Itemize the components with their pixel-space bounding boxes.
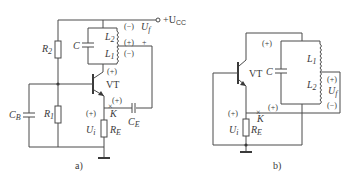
polarity-collector: (+) xyxy=(107,67,117,76)
polarity-bottom-b: (−) xyxy=(327,101,337,110)
diagram-a: +UCC R2 C L2 L1 (−) (+) (−) Uf + CE xyxy=(9,14,186,172)
polarity-tap-b: (+) xyxy=(327,75,337,84)
caption-b: b) xyxy=(273,160,281,172)
k-label-b: K xyxy=(256,113,265,124)
inductor-l2-l1 xyxy=(117,31,119,63)
resistor-r2 xyxy=(55,41,61,58)
polarity-emitter-b: (+) xyxy=(268,103,278,112)
l1-label-b: L1 xyxy=(306,53,317,66)
re-label-b: RE xyxy=(250,124,262,137)
polarity-ui-b: (+) xyxy=(228,109,238,118)
c-label-b: C xyxy=(266,66,273,77)
caption-a: a) xyxy=(75,160,83,172)
ce-label: CE xyxy=(128,116,140,129)
cb-label: CB xyxy=(9,109,21,122)
ui-label: Ui xyxy=(86,124,95,137)
vt-label-b: VT xyxy=(249,68,262,79)
vcc-label: +UCC xyxy=(163,14,186,26)
r1-label: R1 xyxy=(43,108,54,121)
polarity-l2-top: (−) xyxy=(124,22,134,31)
ui-label-b: Ui xyxy=(229,124,238,137)
polarity-emitter: (+) xyxy=(112,96,122,105)
diagram-b: (+) VT C L1 L2 (+) Uf (−) ( xyxy=(213,33,340,172)
uf-label: Uf xyxy=(141,21,152,34)
l1-label: L1 xyxy=(104,48,115,61)
l2-label: L2 xyxy=(104,31,115,44)
resistor-r1 xyxy=(55,106,61,123)
c-label: C xyxy=(73,40,80,51)
junction-dot-b xyxy=(244,143,247,146)
inductor-l1-l2 xyxy=(320,44,322,104)
re-label: RE xyxy=(109,124,121,137)
resistor-re xyxy=(101,120,107,137)
uf-label-b: Uf xyxy=(328,85,339,98)
resistor-re-b xyxy=(243,119,249,136)
polarity-ui: (+) xyxy=(86,109,96,118)
k-break-mark: × xyxy=(108,102,113,111)
vcc-terminal xyxy=(156,18,160,22)
circuit-diagrams: +UCC R2 C L2 L1 (−) (+) (−) Uf + CE xyxy=(0,0,354,184)
vt-label: VT xyxy=(106,79,119,90)
l2-label-b: L2 xyxy=(306,79,317,92)
polarity-l1-bottom: (−) xyxy=(124,49,134,58)
r2-label: R2 xyxy=(41,43,52,56)
polarity-collector-b: (+) xyxy=(262,39,272,48)
